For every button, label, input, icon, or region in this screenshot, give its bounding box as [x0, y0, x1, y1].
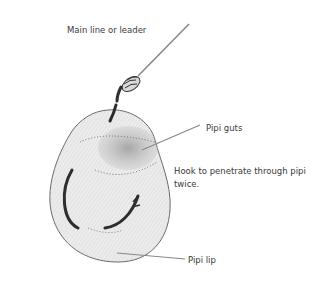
pipi-bait-illustration — [0, 0, 313, 289]
label-main-line: Main line or leader — [67, 24, 146, 37]
label-hook-line1: Hook to penetrate through pipi — [174, 165, 306, 178]
pipi-guts — [98, 126, 158, 170]
label-pipi-guts: Pipi guts — [206, 122, 242, 135]
knot-icon — [117, 73, 143, 101]
label-hook-line2: twice. — [174, 178, 199, 191]
label-pipi-lip: Pipi lip — [188, 254, 216, 267]
